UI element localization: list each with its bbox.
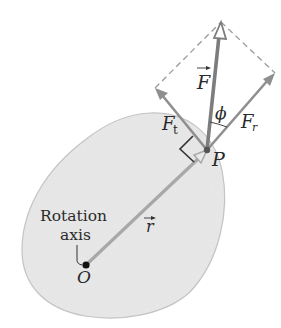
label-fr: F r <box>240 111 258 134</box>
label-f: F <box>196 66 211 93</box>
label-phi: ϕ <box>215 103 227 123</box>
point-p-dot <box>204 147 210 153</box>
label-o: O <box>77 267 91 287</box>
svg-text:t: t <box>173 123 178 137</box>
svg-text:r: r <box>252 121 258 134</box>
label-p: P <box>211 148 226 170</box>
torque-diagram: F ϕ F r F t P r Rotation axis O <box>0 0 281 328</box>
label-rotation-axis-line2: axis <box>60 226 91 244</box>
svg-text:r: r <box>146 217 155 236</box>
svg-text:F: F <box>196 71 211 93</box>
label-rotation-axis-line1: Rotation <box>40 207 107 225</box>
